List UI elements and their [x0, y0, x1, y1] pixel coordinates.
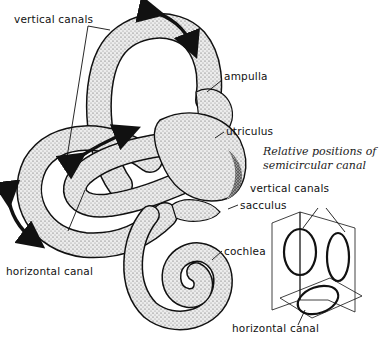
label-vertical-canals: vertical canals — [14, 13, 93, 25]
inset-caption-line1: Relative positions of — [263, 145, 376, 159]
label-ampulla: ampulla — [224, 70, 268, 82]
label-utriculus: utriculus — [226, 125, 273, 137]
label-cochlea: cochlea — [224, 245, 266, 257]
inset-label-vertical-canals: vertical canals — [250, 182, 329, 194]
label-sacculus: sacculus — [240, 199, 287, 211]
canal-orientation-inset — [272, 208, 362, 325]
inset-label-horizontal-canal: horizontal canal — [232, 322, 319, 334]
vertical-canal-ellipse-2 — [327, 233, 349, 281]
label-horizontal-canal: horizontal canal — [6, 265, 93, 277]
inset-caption-line2: semicircular canal — [263, 159, 376, 173]
sacculus-shape — [172, 200, 220, 222]
inner-ear-figure: vertical canals ampulla utriculus saccul… — [0, 0, 380, 339]
inset-caption: Relative positions of semicircular canal — [263, 145, 376, 173]
cochlea-shape — [133, 215, 223, 320]
